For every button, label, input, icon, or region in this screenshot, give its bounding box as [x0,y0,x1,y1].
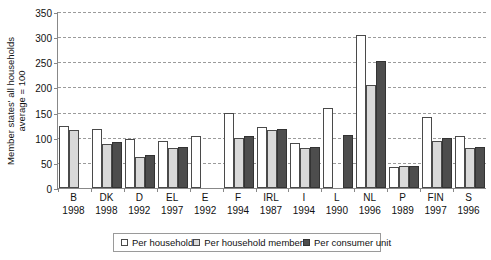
x-axis-label-f: F1994 [222,192,255,217]
bar-i-series-2 [310,147,320,188]
x-label-year: 1997 [156,205,189,218]
bar-e-series-0 [191,136,201,188]
x-label-code: IRL [255,192,288,205]
x-label-year: 1992 [189,205,222,218]
bar-irl-series-2 [277,129,287,188]
x-label-code: D [123,192,156,205]
bar-d-series-0 [125,139,135,188]
x-label-year: 1989 [386,205,419,218]
bar-p-series-1 [399,166,409,188]
y-tick-label-0: 0 [46,184,52,195]
bar-p-series-0 [389,167,399,188]
y-axis-title-wrap: Member states' all households average = … [0,0,30,200]
bar-irl-series-1 [267,130,277,188]
bar-irl-series-0 [257,127,267,188]
bar-nl-series-0 [356,35,366,188]
bar-dk-series-0 [92,129,102,188]
bar-groups [58,12,486,188]
bar-dk-series-1 [102,144,112,188]
bar-group-i [288,12,321,188]
bar-group-p [387,12,420,188]
legend-label: Per household member [204,237,303,248]
bar-group-b [58,12,91,188]
y-tick-label-250: 250 [35,58,52,69]
legend-swatch-icon-0 [121,239,128,246]
bar-el-series-0 [158,141,168,188]
x-label-year: 1997 [419,205,452,218]
legend-label: Per consumer unit [314,237,391,248]
x-label-year: 1994 [222,205,255,218]
y-tick-label-300: 300 [35,33,52,44]
bar-nl-series-1 [366,85,376,188]
bar-nl-series-2 [376,61,386,188]
x-label-year: 1990 [320,205,353,218]
legend-item-0[interactable]: Per household [121,237,193,248]
x-axis-label-p: P1989 [386,192,419,217]
x-label-code: P [386,192,419,205]
bar-fin-series-2 [442,138,452,188]
x-axis-label-l: L1990 [320,192,353,217]
bar-el-series-2 [178,147,188,188]
bar-s-series-1 [465,148,475,188]
x-label-code: FIN [419,192,452,205]
bar-d-series-2 [145,155,155,188]
bar-s-series-0 [455,136,465,188]
bar-s-series-2 [475,147,485,188]
x-label-year: 1996 [353,205,386,218]
bar-group-irl [256,12,289,188]
x-label-year: 1987 [255,205,288,218]
x-label-year: 1992 [123,205,156,218]
bar-i-series-1 [300,148,310,188]
x-label-code: EL [156,192,189,205]
bar-p-series-2 [409,166,419,188]
x-axis-label-b: B1998 [57,192,90,217]
x-label-code: I [287,192,320,205]
x-axis-label-dk: DK1998 [90,192,123,217]
bar-l-series-2 [343,135,353,188]
bar-f-series-2 [244,136,254,188]
bar-fin-series-1 [432,141,442,188]
bar-b-series-0 [59,126,69,188]
bar-group-nl [354,12,387,188]
x-label-code: B [57,192,90,205]
bar-dk-series-2 [112,142,122,188]
plot-area: 350300250200150100500 [57,12,486,189]
x-axis-labels: B1998DK1998D1992EL1997E1992F1994IRL1987I… [57,192,485,217]
x-axis-label-fin: FIN1997 [419,192,452,217]
x-axis-label-irl: IRL1987 [255,192,288,217]
bar-l-series-0 [323,108,333,188]
bar-f-series-1 [234,138,244,188]
chart-figure: Member states' all households average = … [0,0,491,260]
legend-swatch-icon-2 [303,239,310,246]
bar-group-dk [91,12,124,188]
x-axis-label-d: D1992 [123,192,156,217]
x-label-year: 1998 [57,205,90,218]
bar-group-l [321,12,354,188]
x-label-year: 1994 [287,205,320,218]
legend-label: Per household [132,237,193,248]
y-tick-label-150: 150 [35,108,52,119]
y-tick-label-200: 200 [35,83,52,94]
x-axis-label-e: E1992 [189,192,222,217]
bar-f-series-0 [224,113,234,188]
x-label-code: S [452,192,485,205]
x-label-code: E [189,192,222,205]
bar-b-series-1 [69,130,79,188]
x-label-code: DK [90,192,123,205]
x-label-year: 1996 [452,205,485,218]
bar-group-el [157,12,190,188]
y-tick-label-50: 50 [41,158,52,169]
x-label-code: NL [353,192,386,205]
gridline-0: 0 [58,188,486,189]
bar-group-s [453,12,486,188]
x-label-code: L [320,192,353,205]
chart-legend: Per householdPer household memberPer con… [113,233,381,252]
x-label-year: 1998 [90,205,123,218]
legend-item-2[interactable]: Per consumer unit [303,237,391,248]
bar-el-series-1 [168,148,178,188]
y-axis-title: Member states' all households average = … [5,13,27,189]
bar-group-f [223,12,256,188]
legend-item-1[interactable]: Per household member [193,237,303,248]
x-axis-label-el: EL1997 [156,192,189,217]
bar-group-e [190,12,223,188]
